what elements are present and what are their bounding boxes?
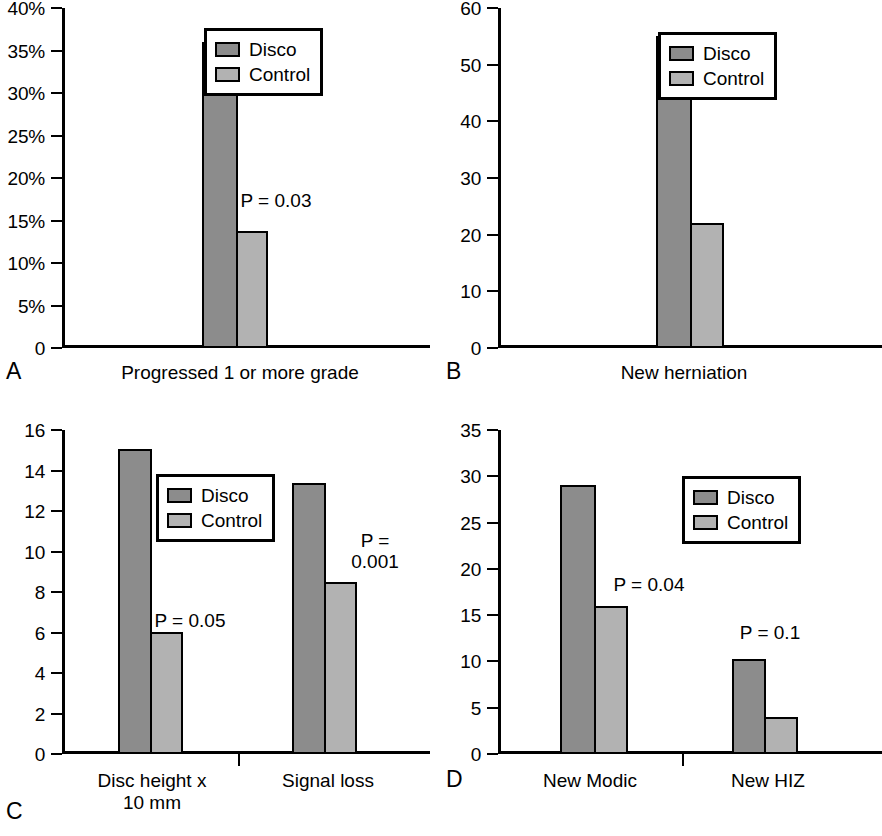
legend-swatch-control-icon <box>693 515 718 530</box>
panel-c-category-label-disc-height: Disc height x 10 mm <box>62 770 242 815</box>
panel-b-y-tick: 50 <box>487 64 498 66</box>
panel-a-plot-area: 0 5% 10% 15% 20% 25% 30% 35% 40% P = 0.0… <box>62 8 418 348</box>
panel-d-plot-area: 0 5 10 15 20 25 30 35 P = 0.04 P = 0.1 <box>498 430 870 754</box>
panel-d-bar-group-new-modic <box>560 485 628 754</box>
panel-d-letter: D <box>446 768 463 791</box>
panel-d-y-tick: 0 <box>487 753 498 755</box>
panel-d-legend-row-disco: Disco <box>693 485 788 510</box>
panel-b-y-tick: 60 <box>487 7 498 9</box>
panel-c-y-tick-label: 2 <box>35 704 45 723</box>
panel-b-y-tick: 10 <box>487 290 498 292</box>
panel-a-y-tick-label: 40% <box>8 0 45 18</box>
panel-d-bar-group-new-hiz <box>732 659 798 754</box>
panel-a-y-tick: 20% <box>51 177 62 179</box>
panel-a-legend-row-disco: Disco <box>215 37 310 62</box>
panel-c-legend: Disco Control <box>156 474 275 542</box>
panel-d-bar-control-new-modic[interactable] <box>594 606 628 754</box>
panel-d-y-tick-label: 20 <box>460 559 481 578</box>
legend-swatch-disco-icon <box>215 42 240 57</box>
panel-a-y-tick: 25% <box>51 135 62 137</box>
panel-b-y-tick-label: 20 <box>460 225 481 244</box>
panel-c-y-tick: 4 <box>51 672 62 674</box>
panel-b-y-tick: 40 <box>487 120 498 122</box>
panel-c-pvalue-label-signal-loss: P = 0.001 <box>332 530 418 573</box>
panel-a-y-tick-label: 0 <box>35 339 45 358</box>
panel-c-bar-control-disc-height[interactable] <box>150 632 183 754</box>
panel-b-legend-label-control: Control <box>703 69 764 88</box>
panel-b-plot-area: 0 10 20 30 40 50 60 Disco Control <box>498 8 870 348</box>
panel-c-legend-row-disco: Disco <box>167 483 262 508</box>
panel-c-category-label-signal-loss: Signal loss <box>248 770 408 792</box>
legend-swatch-disco-icon <box>693 490 718 505</box>
panel-b-y-tick: 0 <box>487 347 498 349</box>
panel-c-y-tick: 12 <box>51 510 62 512</box>
panel-d-bar-disco-new-hiz[interactable] <box>732 659 766 754</box>
panel-a-pvalue-label: P = 0.03 <box>216 190 336 211</box>
panel-c-y-tick: 8 <box>51 591 62 593</box>
panel-b-y-tick-label: 50 <box>460 55 481 74</box>
panel-c-bar-disco-signal-loss[interactable] <box>292 483 326 754</box>
panel-d-x-category-tick <box>682 754 684 766</box>
panel-d-bar-control-new-hiz[interactable] <box>764 717 798 754</box>
panel-a-y-tick-label: 20% <box>8 169 45 188</box>
panel-b-legend-label-disco: Disco <box>703 44 751 63</box>
panel-c-y-tick-label: 8 <box>35 583 45 602</box>
panel-c-y-axis-line <box>62 430 65 754</box>
panel-d-y-tick: 5 <box>487 707 498 709</box>
panel-d-y-axis-line <box>498 430 501 754</box>
panel-c-x-category-tick <box>238 754 240 766</box>
panel-d-pvalue-label-new-hiz: P = 0.1 <box>710 622 830 643</box>
panel-d-bar-disco-new-modic[interactable] <box>560 485 596 754</box>
panel-a-bar-control[interactable] <box>236 231 268 348</box>
panel-c-y-tick: 0 <box>51 753 62 755</box>
panel-c-y-tick-label: 0 <box>35 745 45 764</box>
panel-b-category-label: New herniation <box>498 362 870 384</box>
panel-a-y-tick-label: 35% <box>8 41 45 60</box>
panel-c-y-tick: 14 <box>51 470 62 472</box>
panel-b-y-tick-label: 30 <box>460 169 481 188</box>
panel-b-y-tick: 30 <box>487 177 498 179</box>
panel-d-y-tick: 15 <box>487 614 498 616</box>
panel-c-y-tick-label: 16 <box>24 421 45 440</box>
panel-a-legend-label-disco: Disco <box>249 40 297 59</box>
panel-a-y-tick: 10% <box>51 262 62 264</box>
panel-c-y-tick: 10 <box>51 551 62 553</box>
panel-b-y-tick-label: 60 <box>460 0 481 18</box>
panel-b-legend-row-control: Control <box>669 66 764 91</box>
panel-b-legend-row-disco: Disco <box>669 41 764 66</box>
panel-b-y-tick: 20 <box>487 234 498 236</box>
panel-c-bar-group-signal-loss <box>292 483 357 754</box>
panel-a-y-tick: 15% <box>51 220 62 222</box>
panel-b-bar-control[interactable] <box>690 223 724 348</box>
panel-a-y-tick: 40% <box>51 7 62 9</box>
legend-swatch-disco-icon <box>669 46 694 61</box>
panel-d-y-tick-label: 0 <box>471 745 481 764</box>
panel-a-y-tick: 30% <box>51 92 62 94</box>
panel-c-letter: C <box>6 800 23 823</box>
panel-c-plot-area: 0 2 4 6 8 10 12 14 16 P = 0.05 P = 0.001 <box>62 430 418 754</box>
panel-d-y-tick: 10 <box>487 660 498 662</box>
panel-a-legend: Disco Control <box>204 28 323 96</box>
panel-d-y-tick-label: 10 <box>460 652 481 671</box>
panel-a-y-tick-label: 5% <box>18 296 45 315</box>
panel-d-category-label-new-hiz: New HIZ <box>688 770 848 792</box>
panel-c-legend-row-control: Control <box>167 508 262 533</box>
panel-d-y-tick-label: 15 <box>460 606 481 625</box>
panel-b: 0 10 20 30 40 50 60 Disco Control <box>440 0 880 418</box>
panel-d-x-axis-line <box>498 751 882 754</box>
panel-a-y-tick: 0 <box>51 347 62 349</box>
legend-swatch-control-icon <box>167 513 192 528</box>
panel-c-y-tick: 2 <box>51 713 62 715</box>
panel-c-y-tick-label: 10 <box>24 542 45 561</box>
panel-b-letter: B <box>446 360 461 383</box>
panel-c-bar-disco-disc-height[interactable] <box>118 449 152 754</box>
panel-c-y-tick: 6 <box>51 632 62 634</box>
panel-a-y-tick-label: 30% <box>8 84 45 103</box>
panel-d-y-tick-label: 25 <box>460 513 481 532</box>
panel-c-y-tick-label: 14 <box>24 461 45 480</box>
panel-d-category-label-new-modic: New Modic <box>498 770 682 792</box>
panel-b-y-tick-label: 0 <box>471 339 481 358</box>
legend-swatch-control-icon <box>669 71 694 86</box>
panel-c-bar-control-signal-loss[interactable] <box>324 582 357 754</box>
